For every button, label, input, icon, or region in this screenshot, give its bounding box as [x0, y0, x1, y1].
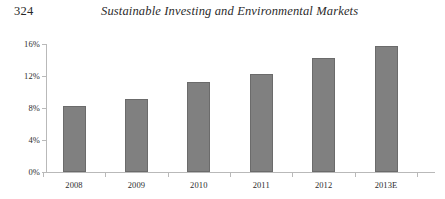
- chart-plot-area: 0%4%8%12%16%200820092010201120122013E: [46, 44, 435, 172]
- y-axis-line: [46, 44, 47, 172]
- x-axis-label: 2013E: [375, 180, 398, 190]
- y-axis-tick: [42, 76, 46, 77]
- x-axis-label: 2009: [128, 180, 145, 190]
- y-axis-tick: [42, 140, 46, 141]
- x-axis-tick: [230, 173, 231, 177]
- x-axis-tick: [417, 173, 418, 177]
- y-axis-label: 16%: [24, 39, 40, 49]
- x-axis-tick: [43, 173, 44, 177]
- bar-chart-figure: 0%4%8%12%16%200820092010201120122013E: [0, 26, 445, 199]
- y-axis-tick: [42, 44, 46, 45]
- x-axis-tick: [168, 173, 169, 177]
- bar: [375, 46, 398, 172]
- bar: [312, 58, 335, 172]
- y-axis-label: 0%: [28, 167, 40, 177]
- page-number: 324: [14, 4, 33, 19]
- y-axis-label: 8%: [28, 103, 40, 113]
- x-axis-label: 2012: [315, 180, 332, 190]
- bar: [125, 99, 148, 172]
- x-axis-tick: [292, 173, 293, 177]
- bar: [250, 74, 273, 172]
- bar: [63, 106, 86, 172]
- y-axis-tick: [42, 108, 46, 109]
- y-axis-label: 12%: [24, 71, 40, 81]
- y-axis-label: 4%: [28, 135, 40, 145]
- running-head-title: Sustainable Investing and Environmental …: [101, 4, 358, 19]
- x-axis-tick: [105, 173, 106, 177]
- bar: [187, 82, 210, 172]
- x-axis-tick: [355, 173, 356, 177]
- x-axis-label: 2011: [253, 180, 270, 190]
- running-head: 324 Sustainable Investing and Environmen…: [0, 0, 445, 26]
- x-axis-label: 2010: [190, 180, 207, 190]
- x-axis-label: 2008: [65, 180, 82, 190]
